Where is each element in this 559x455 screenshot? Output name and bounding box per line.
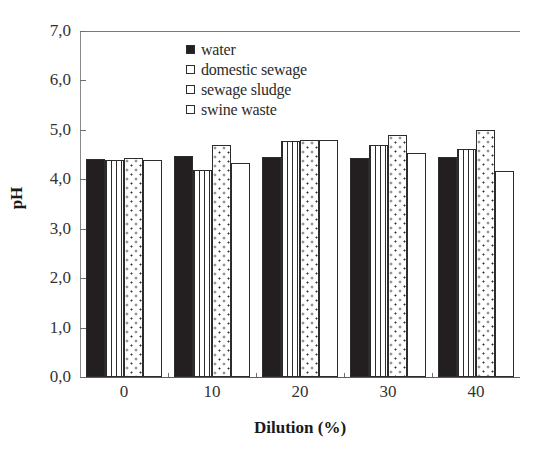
- open-square-icon: [186, 85, 195, 94]
- x-axis-tick-label: 40: [446, 382, 506, 402]
- y-axis-tick-label: 7,0: [25, 21, 71, 41]
- y-axis-tick-mark: [80, 377, 86, 378]
- y-axis-tick-mark: [80, 31, 86, 32]
- legend-item-label: swine waste: [201, 101, 277, 119]
- y-axis-tick: 7,0: [80, 31, 86, 32]
- y-axis-tick-label: 3,0: [25, 219, 71, 239]
- y-axis-tick-label: 1,0: [25, 318, 71, 338]
- y-axis-tick-label: 4,0: [25, 169, 71, 189]
- bar-chart-figure: pH Dilution (%) 0,01,02,03,04,05,06,07,0…: [0, 0, 559, 455]
- plot-frame-left-axis: [80, 31, 81, 378]
- x-axis-title: Dilution (%): [80, 418, 520, 438]
- y-axis-title: pH: [7, 163, 27, 233]
- bar: [86, 159, 105, 377]
- bar: [124, 158, 143, 377]
- y-axis-tick: 0,0: [80, 377, 86, 378]
- legend-item: sewage sludge: [186, 80, 386, 99]
- bar: [262, 157, 281, 377]
- legend-item: swine waste: [186, 100, 386, 119]
- bar: [495, 171, 514, 377]
- x-axis-tick-mark: [168, 373, 169, 378]
- x-axis-tick-label: 20: [270, 382, 330, 402]
- bar: [143, 160, 162, 377]
- y-axis-tick-label: 6,0: [25, 70, 71, 90]
- bar: [212, 145, 231, 377]
- bar: [350, 158, 369, 377]
- x-axis-tick-mark: [256, 373, 257, 378]
- bar: [407, 153, 426, 377]
- chart-legend: waterdomestic sewagesewage sludgeswine w…: [186, 40, 386, 120]
- open-square-icon: [186, 105, 195, 114]
- plot-frame-top: [80, 31, 520, 32]
- y-axis-tick-label: 2,0: [25, 268, 71, 288]
- legend-item-label: sewage sludge: [201, 81, 291, 99]
- bar: [476, 130, 495, 377]
- bar: [174, 156, 193, 377]
- x-axis-tick-label: 30: [358, 382, 418, 402]
- y-axis-tick-mark: [80, 130, 86, 131]
- x-axis-tick-mark: [432, 373, 433, 378]
- bar: [369, 145, 388, 377]
- bar: [105, 160, 124, 377]
- bar: [457, 149, 476, 377]
- bar: [300, 140, 319, 377]
- y-axis-tick: 5,0: [80, 130, 86, 131]
- bar: [388, 135, 407, 377]
- bar: [281, 141, 300, 377]
- y-axis-tick-mark: [80, 80, 86, 81]
- legend-item-label: water: [201, 41, 236, 59]
- legend-item: water: [186, 40, 386, 59]
- x-axis-tick-mark: [344, 373, 345, 378]
- legend-item-label: domestic sewage: [201, 61, 307, 79]
- bar: [231, 163, 250, 377]
- bar: [193, 170, 212, 377]
- y-axis-tick-label: 0,0: [25, 367, 71, 387]
- y-axis-tick-label: 5,0: [25, 120, 71, 140]
- legend-item: domestic sewage: [186, 60, 386, 79]
- open-square-icon: [186, 65, 195, 74]
- bar: [319, 140, 338, 377]
- x-axis-tick-label: 10: [182, 382, 242, 402]
- x-axis-tick-label: 0: [94, 382, 154, 402]
- y-axis-tick: 6,0: [80, 80, 86, 81]
- filled-square-icon: [186, 45, 195, 54]
- bar: [438, 157, 457, 377]
